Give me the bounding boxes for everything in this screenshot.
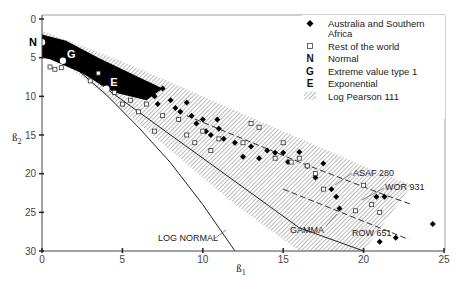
square-marker — [185, 133, 189, 137]
point-e-marker — [103, 85, 109, 91]
scatter-plot: NGE 0510152025051015202530ß1ß2 ASAF 280W… — [0, 0, 460, 282]
square-marker — [249, 121, 253, 125]
square-marker — [128, 98, 132, 102]
point-g-label: G — [67, 48, 76, 60]
legend-label: Normal — [328, 53, 359, 64]
annotation-gamma: GAMMA — [290, 225, 324, 235]
square-marker — [136, 110, 140, 114]
square-marker — [370, 203, 374, 207]
x-tick-label: 15 — [278, 254, 290, 265]
y-axis-label: ß2 — [12, 131, 22, 146]
square-marker — [354, 209, 358, 213]
x-tick-label: 5 — [120, 254, 126, 265]
square-marker — [313, 172, 317, 176]
x-axis-label: ß1 — [236, 262, 246, 277]
y-tick-label: 5 — [30, 52, 36, 63]
x-tick-label: 20 — [358, 254, 370, 265]
square-marker — [241, 141, 245, 145]
y-tick-label: 20 — [25, 168, 37, 179]
y-tick-label: 0 — [30, 14, 36, 25]
diamond-marker — [393, 235, 399, 241]
annotation-log-normal: LOG NORMAL — [158, 233, 218, 243]
point-g-marker — [60, 58, 66, 64]
square-marker — [297, 156, 301, 160]
square-marker — [153, 129, 157, 133]
square-marker — [112, 90, 116, 94]
square-marker — [193, 141, 197, 145]
chart-figure: NGE 0510152025051015202530ß1ß2 ASAF 280W… — [0, 0, 460, 282]
x-tick-label: 25 — [438, 254, 450, 265]
legend-label: Extreme value type 1 — [328, 66, 417, 77]
y-tick-label: 15 — [25, 130, 37, 141]
y-tick-label: 30 — [25, 246, 37, 257]
square-marker — [305, 164, 309, 168]
square-marker — [217, 137, 221, 141]
legend-symbol-g: G — [306, 66, 314, 77]
annotation-wor-931: WOR 931 — [385, 182, 425, 192]
diamond-marker — [430, 221, 436, 227]
square-marker — [362, 183, 366, 187]
legend: Australia and SouthernAfricaRest of the … — [302, 15, 445, 119]
legend-label-cont: Africa — [328, 28, 353, 39]
legend-label: Exponential — [328, 78, 378, 89]
square-marker — [257, 125, 261, 129]
hatch-icon — [304, 92, 316, 100]
square-marker — [201, 129, 205, 133]
square-marker — [378, 210, 382, 214]
square-marker — [120, 102, 124, 106]
square-marker — [289, 160, 293, 164]
legend-symbol-e: E — [307, 78, 314, 89]
x-tick-label: 0 — [39, 254, 45, 265]
annotation-row-651: ROW 651 — [352, 228, 392, 238]
point-e-label: E — [110, 76, 117, 88]
square-marker — [161, 114, 165, 118]
point-n-label: N — [29, 36, 37, 48]
legend-label: Log Pearson 111 — [328, 91, 399, 102]
square-marker — [321, 187, 325, 191]
legend-symbol-n: N — [306, 53, 313, 64]
annotation-asaf-280: ASAF 280 — [353, 168, 394, 178]
y-tick-label: 10 — [25, 91, 37, 102]
square-marker — [53, 67, 57, 71]
square-marker — [59, 66, 63, 70]
square-marker — [209, 148, 213, 152]
legend-label: Rest of the world — [328, 41, 399, 52]
diamond-marker — [377, 239, 383, 245]
square-icon — [308, 44, 313, 49]
square-marker — [177, 118, 181, 122]
square-marker — [96, 71, 100, 75]
x-tick-label: 10 — [197, 254, 209, 265]
square-marker — [48, 65, 52, 69]
square-marker — [281, 141, 285, 145]
square-marker — [88, 79, 92, 83]
y-tick-label: 25 — [25, 207, 37, 218]
square-marker — [145, 102, 149, 106]
square-marker — [273, 156, 277, 160]
